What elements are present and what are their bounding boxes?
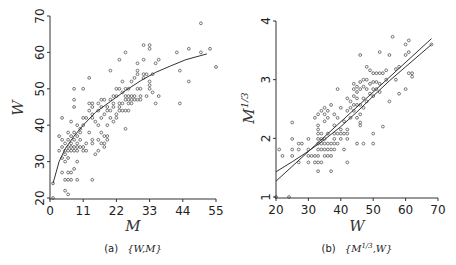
- data-point: [359, 124, 362, 127]
- y-tick-label: 4: [259, 17, 273, 25]
- panel-a-x-ticks: 01122334455: [46, 199, 223, 218]
- y-tick-label: 40: [33, 118, 47, 133]
- data-point: [118, 58, 121, 61]
- data-point: [278, 148, 281, 151]
- data-point: [73, 138, 76, 141]
- data-point: [356, 97, 359, 100]
- data-point: [323, 155, 326, 158]
- data-point: [73, 149, 76, 152]
- data-point: [336, 116, 339, 119]
- data-point: [97, 138, 100, 141]
- data-point: [139, 87, 142, 90]
- data-point: [139, 95, 142, 98]
- x-tick-label: 33: [142, 204, 157, 218]
- data-point: [142, 44, 145, 47]
- data-point: [106, 135, 109, 138]
- data-point: [385, 69, 388, 72]
- data-point: [375, 72, 378, 75]
- data-point: [127, 98, 130, 101]
- data-point: [307, 155, 310, 158]
- data-point: [372, 88, 375, 91]
- data-point: [97, 124, 100, 127]
- data-point: [109, 69, 112, 72]
- data-point: [94, 120, 97, 123]
- data-point: [97, 149, 100, 152]
- data-point: [330, 148, 333, 151]
- data-point: [73, 106, 76, 109]
- y-tick-label: 50: [33, 81, 47, 96]
- x-tick-label: 30: [301, 203, 316, 217]
- data-point: [365, 88, 368, 91]
- data-point: [79, 146, 82, 149]
- data-point: [67, 138, 70, 141]
- data-point: [365, 78, 368, 81]
- data-point: [411, 75, 414, 78]
- data-point: [76, 178, 79, 181]
- data-point: [339, 132, 342, 135]
- data-point: [91, 102, 94, 105]
- x-tick-label: 0: [46, 204, 54, 218]
- data-point: [362, 97, 365, 100]
- data-point: [317, 124, 320, 127]
- data-point: [323, 113, 326, 116]
- data-point: [310, 155, 313, 158]
- data-point: [100, 142, 103, 145]
- data-point: [317, 128, 320, 131]
- data-point: [291, 155, 294, 158]
- data-point: [106, 106, 109, 109]
- data-point: [352, 88, 355, 91]
- data-point: [103, 146, 106, 149]
- data-point: [291, 138, 294, 141]
- data-point: [352, 95, 355, 98]
- data-point: [133, 95, 136, 98]
- data-point: [67, 193, 70, 196]
- data-point: [333, 148, 336, 151]
- data-point: [317, 113, 320, 116]
- data-point: [124, 98, 127, 101]
- data-point: [73, 87, 76, 90]
- data-point: [127, 109, 130, 112]
- y-tick-label: 70: [33, 8, 47, 23]
- panel-b-y-label: M1/3: [239, 92, 258, 124]
- data-point: [359, 113, 362, 116]
- data-point: [70, 146, 73, 149]
- data-point: [349, 106, 352, 109]
- data-point: [82, 149, 85, 152]
- data-point: [67, 171, 70, 174]
- data-point: [106, 138, 109, 141]
- data-point: [154, 62, 157, 65]
- y-tick-label: 1: [259, 193, 273, 201]
- data-point: [339, 128, 342, 131]
- y-tick-label: 60: [33, 45, 47, 60]
- data-point: [94, 153, 97, 156]
- data-point: [133, 77, 136, 80]
- data-point: [136, 69, 139, 72]
- data-point: [154, 102, 157, 105]
- data-point: [291, 121, 294, 124]
- data-point: [118, 106, 121, 109]
- data-point: [100, 98, 103, 101]
- data-point: [148, 84, 151, 87]
- data-point: [320, 109, 323, 112]
- data-point: [64, 178, 67, 181]
- x-tick-label: 70: [430, 203, 445, 217]
- data-point: [317, 170, 320, 173]
- data-point: [362, 85, 365, 88]
- data-point: [333, 113, 336, 116]
- y-tick-label: 20: [33, 190, 47, 205]
- data-point: [91, 178, 94, 181]
- x-tick-label: 55: [208, 204, 223, 218]
- data-point: [133, 98, 136, 101]
- data-point: [372, 142, 375, 145]
- data-point: [70, 149, 73, 152]
- data-point: [346, 97, 349, 100]
- data-point: [187, 47, 190, 50]
- data-point: [136, 98, 139, 101]
- data-point: [136, 87, 139, 90]
- data-point: [67, 131, 70, 134]
- panel-a-fit-curve: [53, 54, 207, 184]
- data-point: [215, 66, 218, 69]
- data-point: [178, 102, 181, 105]
- data-point: [369, 82, 372, 85]
- data-point: [67, 157, 70, 160]
